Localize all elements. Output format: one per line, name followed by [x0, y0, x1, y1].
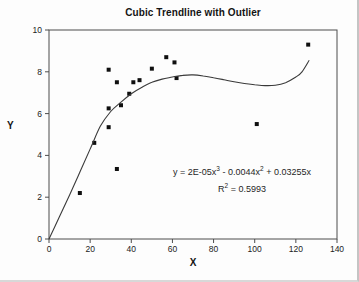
- x-tick-label: 80: [209, 244, 219, 254]
- y-tick-label: 4: [37, 150, 42, 160]
- x-axis-title: X: [49, 257, 337, 268]
- x-tick-label: 60: [168, 244, 178, 254]
- y-tick-label: 10: [33, 25, 43, 35]
- plot-area: 0204060801001201400246810: [0, 0, 359, 282]
- x-tick-label: 120: [289, 244, 303, 254]
- data-point-marker: [115, 167, 119, 171]
- data-point-marker: [172, 60, 176, 64]
- data-point-marker: [131, 80, 135, 84]
- data-point-marker: [306, 43, 310, 47]
- trendline-equation: y = 2E-05x3 - 0.0044x2 + 0.03255x: [156, 162, 328, 179]
- data-point-marker: [107, 125, 111, 129]
- y-tick-label: 0: [37, 234, 42, 244]
- data-point-marker: [164, 55, 168, 59]
- equation-text: y = 2E-05x: [173, 167, 216, 177]
- x-tick-label: 0: [47, 244, 52, 254]
- data-point-marker: [150, 67, 154, 71]
- data-point-marker: [255, 122, 259, 126]
- plot-frame: [49, 30, 337, 239]
- figure-page: Cubic Trendline with Outlier Y 020406080…: [0, 0, 359, 282]
- r-squared-text: = 0.5993: [228, 184, 266, 194]
- data-point-marker: [107, 68, 111, 72]
- y-tick-label: 8: [37, 67, 42, 77]
- x-tick-label: 40: [127, 244, 137, 254]
- data-point-marker: [138, 78, 142, 82]
- x-tick-label: 140: [330, 244, 344, 254]
- x-tick-label: 20: [85, 244, 95, 254]
- data-point-marker: [107, 106, 111, 110]
- equation-text: + 0.03255x: [264, 167, 311, 177]
- data-point-marker: [115, 80, 119, 84]
- r-squared: R2 = 0.5993: [156, 179, 328, 196]
- trendline-curve: [49, 60, 309, 239]
- y-tick-label: 2: [37, 192, 42, 202]
- data-point-marker: [78, 191, 82, 195]
- equation-text: - 0.0044x: [220, 167, 260, 177]
- x-tick-label: 100: [248, 244, 262, 254]
- y-tick-label: 6: [37, 109, 42, 119]
- trendline-annotation: y = 2E-05x3 - 0.0044x2 + 0.03255x R2 = 0…: [156, 162, 328, 196]
